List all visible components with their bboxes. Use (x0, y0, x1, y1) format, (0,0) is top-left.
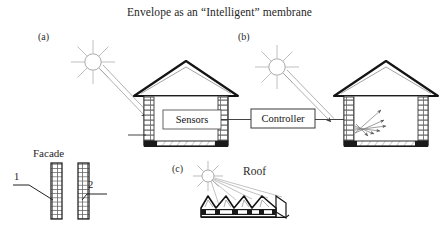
facade-callout-1: 1 (14, 172, 19, 183)
panel-label-c: (c) (172, 164, 183, 174)
figure-canvas: Envelope as an “Intelligent” membrane (a… (0, 0, 439, 239)
roof-label: Roof (243, 166, 266, 178)
facade-callout-1-leader (13, 185, 53, 200)
sawtooth-roof-building (201, 196, 289, 218)
facade-callout-2: 2 (88, 180, 93, 191)
panel-label-b: (b) (238, 32, 250, 42)
controller-box-label: Controller (251, 109, 315, 128)
figure-title: Envelope as an “Intelligent” membrane (0, 7, 439, 19)
house-b (334, 61, 438, 146)
facade-elements (51, 163, 89, 219)
sensors-box-label: Sensors (163, 110, 221, 129)
panel-label-a: (a) (38, 32, 49, 42)
facade-label: Facade (33, 148, 64, 159)
house-a (134, 61, 238, 146)
sun-c (193, 161, 223, 191)
